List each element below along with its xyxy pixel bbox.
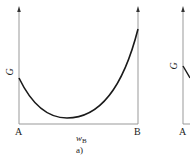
x-axis-label-a: wB — [76, 134, 87, 145]
gibbs-curve — [19, 29, 138, 118]
panel-a — [17, 6, 140, 124]
y-axis-label-b: G — [169, 62, 179, 69]
endpoint-b-label: B — [134, 127, 141, 137]
endpoint-a-label-b: A — [179, 127, 186, 137]
panel-a-caption: a) — [76, 146, 83, 155]
gibbs-energy-diagram — [0, 0, 190, 158]
x-axis-label-sub: B — [82, 137, 87, 145]
panel-b — [181, 6, 190, 124]
endpoint-a-label: A — [15, 127, 22, 137]
y-axis-right-arrow-icon — [136, 6, 140, 12]
gibbs-curve-b — [183, 66, 190, 78]
y-axis-label-a: G — [5, 68, 15, 75]
y-axis-left-b-arrow-icon — [181, 6, 185, 12]
y-axis-left-arrow-icon — [17, 6, 21, 12]
